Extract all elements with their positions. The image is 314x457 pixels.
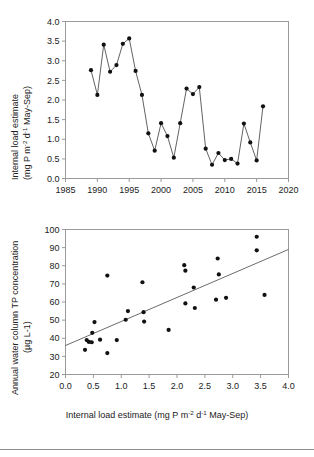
bottom-data-points	[83, 235, 267, 356]
bottom-x-tick-label: 3.0	[226, 381, 239, 391]
bottom-x-tick-label: 0.5	[87, 381, 100, 391]
top-data-point	[261, 104, 265, 108]
bottom-data-point	[224, 296, 228, 300]
bottom-data-point	[90, 340, 94, 344]
top-data-point	[191, 92, 195, 96]
top-data-point	[165, 134, 169, 138]
bottom-y-ticks: 2030405060708090100	[44, 225, 65, 380]
top-data-point	[153, 149, 157, 153]
bottom-data-point	[115, 338, 119, 342]
bottom-data-point	[105, 351, 109, 355]
top-x-tick-label: 2020	[278, 185, 298, 195]
top-y-ticks: 0.00.51.01.52.02.53.03.54.0	[47, 17, 66, 184]
bottom-y-tick-label: 60	[49, 297, 59, 307]
bottom-data-point	[83, 348, 87, 352]
bottom-y-tick-label: 70	[49, 279, 59, 289]
top-data-point	[248, 140, 252, 144]
top-y-tick-label: 4.0	[47, 17, 60, 27]
bottom-data-point	[140, 280, 144, 284]
top-y-tick-label: 0.0	[47, 174, 60, 184]
top-data-point	[210, 163, 214, 167]
top-y-tick-label: 0.5	[47, 154, 60, 164]
bottom-data-point	[192, 285, 196, 289]
bottom-x-tick-label: 4.0	[282, 381, 295, 391]
top-data-series	[89, 36, 265, 167]
bottom-data-point	[217, 272, 221, 276]
bottom-data-point	[98, 338, 102, 342]
top-data-point	[133, 69, 137, 73]
top-data-point	[223, 158, 227, 162]
footer-divider	[0, 449, 314, 450]
top-y-tick-label: 1.0	[47, 134, 60, 144]
top-data-point	[242, 121, 246, 125]
top-data-point	[178, 121, 182, 125]
top-y-tick-label: 1.5	[47, 115, 60, 125]
regression-line	[66, 249, 289, 345]
bottom-data-point	[126, 309, 130, 313]
top-data-point	[121, 42, 125, 46]
bottom-data-point	[183, 269, 187, 273]
bottom-x-tick-label: 1.0	[115, 381, 128, 391]
bottom-y-tick-label: 100	[44, 225, 59, 235]
bottom-data-point	[182, 263, 186, 267]
bottom-y-tick-label: 20	[49, 370, 59, 380]
bottom-data-point	[183, 301, 187, 305]
bottom-data-point	[105, 273, 109, 277]
bottom-x-tick-label: 2.0	[171, 381, 184, 391]
top-y-tick-label: 3.5	[47, 36, 60, 46]
top-data-point	[102, 43, 106, 47]
bottom-data-point	[193, 306, 197, 310]
top-data-point	[255, 158, 259, 162]
bottom-yaxis-title: Annual water column TP concentration (µg…	[10, 241, 32, 395]
bottom-x-ticks: 0.00.51.01.52.02.53.03.54.0	[59, 375, 295, 391]
top-data-point	[197, 85, 201, 89]
top-x-tick-label: 2010	[215, 185, 235, 195]
top-x-tick-label: 1995	[119, 185, 139, 195]
bottom-data-point	[167, 328, 171, 332]
scatter-chart-svg: Annual water column TP concentration (µg…	[0, 205, 314, 433]
top-y-tick-label: 2.5	[47, 76, 60, 86]
top-x-tick-label: 2000	[151, 185, 171, 195]
top-data-point	[184, 87, 188, 91]
top-data-point	[127, 36, 131, 40]
bottom-x-tick-label: 0.0	[59, 381, 72, 391]
bottom-data-point	[262, 293, 266, 297]
top-yaxis-title-line2: (mg P m-2 d-1 May-Sep)	[21, 86, 32, 180]
top-data-point	[146, 131, 150, 135]
bottom-xaxis-title: Internal load estimate (mg P m-2 d-1 May…	[66, 409, 248, 420]
bottom-y-tick-label: 50	[49, 315, 59, 325]
top-data-point	[235, 161, 239, 165]
bottom-x-tick-label: 1.5	[143, 381, 156, 391]
top-data-point	[95, 93, 99, 97]
bottom-y-tick-label: 30	[49, 352, 59, 362]
bottom-y-tick-label: 80	[49, 261, 59, 271]
bottom-data-point	[92, 320, 96, 324]
bottom-data-point	[90, 331, 94, 335]
top-data-point	[204, 147, 208, 151]
top-x-tick-label: 1985	[55, 185, 75, 195]
top-data-point	[114, 63, 118, 67]
top-data-point	[89, 68, 93, 72]
bottom-data-point	[141, 310, 145, 314]
top-data-point	[216, 151, 220, 155]
bottom-x-tick-label: 3.5	[254, 381, 267, 391]
top-data-point	[140, 93, 144, 97]
top-data-point	[172, 156, 176, 160]
bottom-data-point	[255, 248, 259, 252]
top-data-point	[159, 121, 163, 125]
bottom-data-point	[124, 318, 128, 322]
figure-container: Internal load estimate (mg P m-2 d-1 May…	[0, 0, 314, 457]
panel-internal-load-timeseries: Internal load estimate (mg P m-2 d-1 May…	[0, 0, 314, 205]
bottom-data-point	[255, 235, 259, 239]
bottom-trend-line	[66, 249, 289, 345]
bottom-x-tick-label: 2.5	[199, 381, 212, 391]
top-series-line	[91, 38, 263, 164]
line-chart-svg: Internal load estimate (mg P m-2 d-1 May…	[0, 0, 314, 205]
top-x-tick-label: 2005	[183, 185, 203, 195]
top-data-point	[229, 157, 233, 161]
top-x-tick-label: 2015	[247, 185, 267, 195]
top-x-tick-label: 1990	[87, 185, 107, 195]
top-data-point	[108, 70, 112, 74]
bottom-y-tick-label: 40	[49, 333, 59, 343]
bottom-data-point	[142, 319, 146, 323]
